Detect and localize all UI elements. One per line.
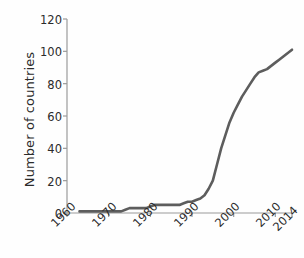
x-tick-label: 1960 [48, 199, 79, 230]
x-tick-label: 1970 [89, 199, 120, 230]
x-axis-tick-labels: 1960 1970 1980 1990 2000 2010 2014 [0, 0, 304, 258]
x-tick-label: 1990 [171, 199, 202, 230]
chart-figure: Number of countries 120 100 80 60 40 20 … [0, 0, 304, 258]
x-tick-label: 2000 [212, 199, 243, 230]
x-tick-label: 1980 [130, 199, 161, 230]
